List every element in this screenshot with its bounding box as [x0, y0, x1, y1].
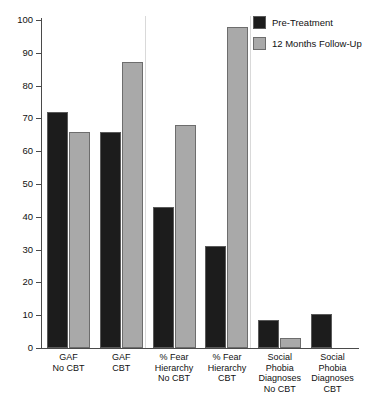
bar-12-months-follow-up [175, 125, 196, 348]
y-axis-label: 0 [0, 343, 33, 353]
y-axis-label: 50 [0, 179, 33, 189]
bar-12-months-follow-up [69, 132, 90, 348]
legend-swatch-12-months-follow-up [253, 37, 266, 50]
bar-chart: 1009080706050403020100 GAF No CBTGAF CBT… [0, 0, 372, 411]
y-axis-label: 30 [0, 245, 33, 255]
x-axis-line [41, 348, 359, 349]
y-axis-label: 100 [0, 15, 33, 25]
x-axis-category-label: Social Phobia Diagnoses CBT [295, 352, 371, 394]
bar-pre-treatment [205, 246, 226, 348]
bar-pre-treatment [311, 314, 332, 348]
legend-item-pre-treatment: Pre-Treatment [253, 14, 371, 31]
y-axis-label: 20 [0, 277, 33, 287]
chart-legend: Pre-Treatment 12 Months Follow-Up [253, 14, 371, 56]
bar-12-months-follow-up [280, 338, 301, 348]
y-axis-tick [36, 348, 42, 349]
y-axis-label: 10 [0, 310, 33, 320]
bar-pre-treatment [100, 132, 121, 348]
legend-swatch-pre-treatment [253, 16, 266, 29]
legend-item-12-months-follow-up: 12 Months Follow-Up [253, 35, 371, 52]
bar-12-months-follow-up [122, 62, 143, 348]
legend-label-pre-treatment: Pre-Treatment [272, 17, 333, 28]
bar-pre-treatment [47, 112, 68, 348]
bar-pre-treatment [258, 320, 279, 348]
y-axis-label: 80 [0, 81, 33, 91]
bar-12-months-follow-up [227, 27, 248, 348]
bar-pre-treatment [153, 207, 174, 348]
y-axis-label: 70 [0, 113, 33, 123]
y-axis-label: 90 [0, 48, 33, 58]
y-axis-label: 60 [0, 146, 33, 156]
legend-label-12-months-follow-up: 12 Months Follow-Up [272, 38, 362, 49]
y-axis-label: 40 [0, 212, 33, 222]
